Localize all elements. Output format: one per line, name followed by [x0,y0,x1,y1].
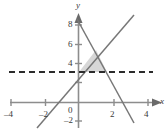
x-tick-label-0: 0 [68,106,73,115]
y-axis-label: y [76,1,80,10]
x-tick-label--2: –2 [39,110,48,119]
x-axis-label: x [160,97,164,106]
x-tick-label--4: –4 [4,110,13,119]
y-tick-label--2: –2 [64,116,73,125]
x-tick-label-4: 4 [144,110,149,119]
shaded-solution-region [79,50,107,72]
y-tick-label-4: 4 [68,59,73,68]
graph-figure: –4 –2 0 2 4 8 6 4 –2 y x [0,0,167,130]
y-tick-label-6: 6 [68,40,73,49]
y-tick-label-8: 8 [68,20,73,29]
coordinate-plane-svg [0,0,167,130]
x-tick-label-2: 2 [110,110,115,119]
